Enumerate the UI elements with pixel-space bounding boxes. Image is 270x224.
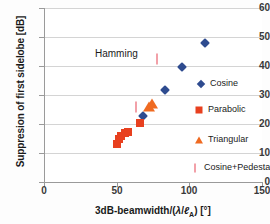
y-tick-mark-60 [39, 8, 44, 9]
data-point-parabolic [124, 128, 132, 136]
x-axis-title-prefix: 3dB-beamwidth/( [95, 205, 176, 216]
legend-label-cosine-pedestal: Cosine+Pedestal [204, 163, 270, 172]
y-tick-label-50: 50 [236, 32, 270, 42]
y-tick-label-20: 20 [236, 119, 270, 129]
y-axis-line [44, 8, 45, 183]
y-tick-mark-10 [39, 153, 44, 154]
data-point-cosine-pedestal [156, 53, 158, 64]
gridline-50 [45, 37, 263, 38]
y-tick-mark-40 [39, 66, 44, 67]
x-tick-label-50: 50 [97, 186, 137, 196]
y-tick-label-60: 60 [236, 3, 270, 13]
gridline-20 [45, 124, 263, 125]
legend-item-triangular[interactable]: Triangular [194, 134, 248, 145]
annotation-hamming: Hamming [95, 48, 138, 59]
y-tick-mark-30 [39, 95, 44, 96]
plot-area [44, 8, 262, 182]
square-marker-icon [194, 104, 204, 115]
y-tick-mark-20 [39, 124, 44, 125]
tick-marker-icon [190, 162, 200, 173]
legend-label-parabolic: Parabolic [208, 105, 246, 114]
x-axis-line [44, 182, 263, 183]
x-axis-title: 3dB-beamwidth/(λ/ℓA) [°] [44, 205, 262, 218]
gridline-40 [45, 66, 263, 67]
legend-item-cosine-pedestal[interactable]: Cosine+Pedestal [190, 162, 270, 173]
legend-label-cosine: Cosine [210, 79, 238, 88]
legend-label-triangular: Triangular [208, 135, 248, 144]
y-tick-label-10: 10 [236, 148, 270, 158]
legend-item-parabolic[interactable]: Parabolic [194, 104, 246, 115]
gridline-60 [45, 8, 263, 9]
legend-item-cosine[interactable]: Cosine [196, 78, 238, 89]
data-point-triangular [146, 98, 158, 108]
x-tick-label-100: 100 [169, 186, 209, 196]
diamond-marker-icon [196, 78, 206, 89]
y-axis-title: Suppresion of first sidelobe [dB] [15, 2, 26, 182]
chart-figure: 60 50 40 30 20 10 0 0 50 100 150 Suppres… [0, 0, 270, 224]
x-tick-label-0: 0 [24, 186, 64, 196]
gridline-30 [45, 95, 263, 96]
data-point-parabolic [136, 119, 144, 127]
gridline-10 [45, 153, 263, 154]
x-axis-title-suffix: ) [°] [194, 205, 211, 216]
y-tick-label-40: 40 [236, 61, 270, 71]
y-tick-label-30: 30 [236, 90, 270, 100]
data-point-cosine-pedestal [135, 101, 137, 112]
x-tick-label-150: 150 [242, 186, 270, 196]
triangle-marker-icon [194, 134, 204, 145]
y-tick-mark-50 [39, 37, 44, 38]
